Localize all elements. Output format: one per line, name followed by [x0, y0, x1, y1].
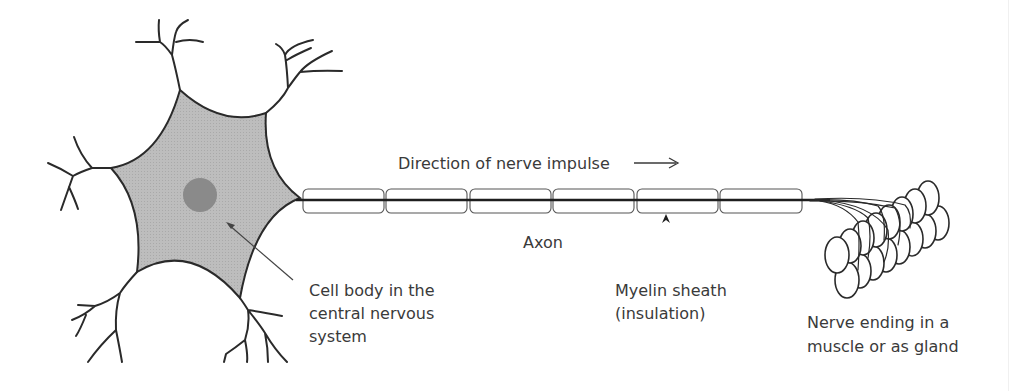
myelin-label: Myelin sheath (insulation): [615, 281, 732, 323]
cell-body: [111, 90, 300, 298]
nerve-ending-label-line-1: Nerve ending in a: [807, 313, 949, 332]
dendrite-top-left: [136, 20, 203, 90]
nerve-ending-label: Nerve ending in a muscle or as gland: [807, 313, 959, 356]
nerve-ending-label-line-2: muscle or as gland: [807, 337, 959, 356]
cell-body-label: Cell body in the central nervous system: [309, 281, 440, 346]
nucleus: [183, 178, 217, 212]
cell-body-label-line-1: Cell body in the: [309, 281, 435, 300]
muscle-fibres: [810, 181, 949, 298]
direction-label: Direction of nerve impulse: [398, 154, 610, 173]
dendrite-left: [48, 137, 111, 210]
dendrite-bottom-right: [224, 298, 287, 362]
myelin-pointer-arrowhead: [662, 214, 670, 223]
dendrite-top-right: [266, 40, 342, 113]
myelin-label-line-2: (insulation): [615, 304, 705, 323]
cell-body-label-line-3: system: [309, 327, 367, 346]
cell-body-label-line-2: central nervous: [309, 304, 434, 323]
dendrite-bottom-left: [72, 272, 137, 362]
myelin-label-line-1: Myelin sheath: [615, 281, 727, 300]
axon-label: Axon: [523, 233, 563, 252]
neuron-diagram: Direction of nerve impulse Axon Cell bod…: [0, 0, 1019, 391]
direction-arrow-icon: [634, 158, 678, 168]
axon: [296, 189, 830, 223]
